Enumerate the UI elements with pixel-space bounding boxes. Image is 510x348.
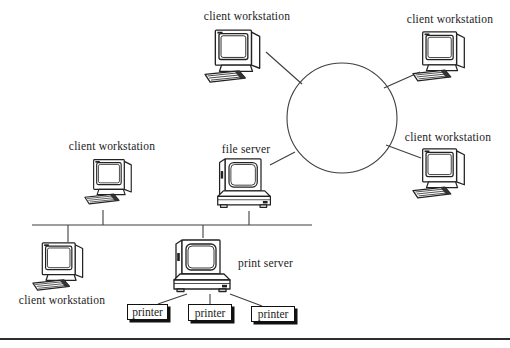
label-ws-top-right: client workstation [407,13,493,25]
label-print-server: print server [238,257,293,269]
network-diagram: client workstation client workstation cl… [0,0,510,348]
printer-3-label: printer [258,308,289,320]
file-server-icon [213,156,277,210]
workstation-top-icon [204,27,270,85]
workstation-bottom-left-icon [32,240,92,293]
link-printer-1 [158,294,187,304]
ring-network [287,63,397,173]
workstation-mid-right-icon [412,146,474,200]
link-printer-3 [230,294,262,306]
printer-1-label: printer [132,306,163,318]
label-file-server: file server [222,143,271,155]
label-ws-mid-left: client workstation [69,140,155,152]
workstation-mid-left-icon [84,157,140,206]
print-server-icon [169,237,237,294]
printer-box-3: printer [251,306,295,322]
label-ws-mid-right: client workstation [405,131,491,143]
bottom-rule [0,338,510,340]
printer-2-label: printer [195,307,226,319]
label-ws-top: client workstation [204,10,290,22]
workstation-top-right-icon [412,29,474,83]
link-ws-top-ring [266,52,302,84]
printer-box-2: printer [188,304,232,321]
printer-box-1: printer [127,304,168,320]
label-ws-bottom-left: client workstation [19,294,105,306]
